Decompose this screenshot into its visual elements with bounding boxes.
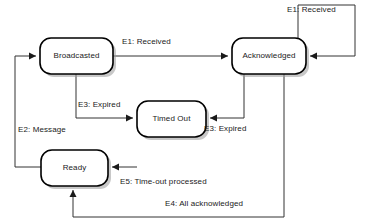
edge-label-e3-expired-left: E3: Expired [78, 100, 120, 109]
state-diagram: Broadcasted Acknowledged Timed Out Ready… [0, 0, 371, 224]
state-label-broadcasted: Broadcasted [40, 51, 113, 60]
edge-broadcasted-to-acknowledged [113, 53, 228, 60]
edge-label-e2-message: E2: Message [18, 125, 66, 134]
edge-timed-out-to-ready [112, 164, 137, 171]
edge-broadcasted-to-timed-out [76, 74, 133, 122]
state-label-timed-out: Timed Out [137, 114, 206, 123]
edge-label-e1-received-selfloop: E1: Received [287, 5, 336, 14]
diagram-vector-layer [0, 0, 371, 224]
edge-acknowledged-to-timed-out [210, 74, 244, 122]
edge-label-e3-expired-right: E3: Expired [204, 124, 246, 133]
edge-ready-to-broadcasted [15, 53, 41, 168]
edge-label-e5-timeout-processed: E5: Time-out processed [120, 177, 207, 186]
edge-label-e4-all-acknowledged: E4: All acknowledged [165, 199, 243, 208]
state-label-ready: Ready [41, 163, 108, 172]
state-label-acknowledged: Acknowledged [232, 51, 306, 60]
edge-acknowledged-to-ready [70, 74, 285, 217]
edge-label-e1-received-broadcast: E1: Received [122, 37, 171, 46]
